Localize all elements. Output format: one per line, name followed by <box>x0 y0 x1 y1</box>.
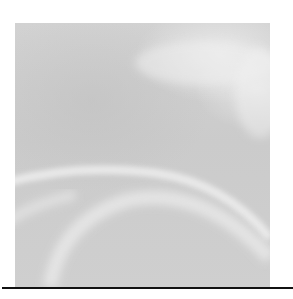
swoosh-arcs-icon <box>15 23 270 287</box>
abstract-swoosh-graphic <box>15 23 270 287</box>
page-canvas <box>0 0 293 299</box>
horizontal-divider <box>2 287 293 289</box>
